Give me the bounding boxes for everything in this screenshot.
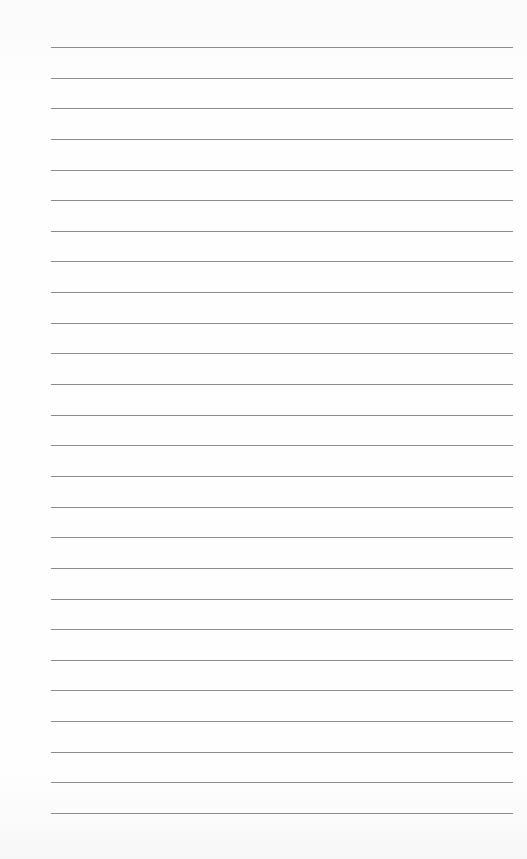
- ruled-line: [51, 568, 513, 569]
- ruled-line: [51, 353, 513, 354]
- ruled-line: [51, 139, 513, 140]
- ruled-line: [51, 690, 513, 691]
- ruled-line: [51, 507, 513, 508]
- ruled-line: [51, 445, 513, 446]
- ruled-line: [51, 292, 513, 293]
- ruled-line: [51, 108, 513, 109]
- ruled-line: [51, 200, 513, 201]
- ruled-line: [51, 660, 513, 661]
- ruled-line: [51, 599, 513, 600]
- ruled-line: [51, 537, 513, 538]
- ruled-line: [51, 415, 513, 416]
- ruled-line: [51, 47, 513, 48]
- ruled-line: [51, 476, 513, 477]
- ruled-line: [51, 782, 513, 783]
- ruled-line: [51, 323, 513, 324]
- ruled-line: [51, 752, 513, 753]
- ruled-line: [51, 813, 513, 814]
- ruled-line: [51, 261, 513, 262]
- ruled-line: [51, 721, 513, 722]
- ruled-line: [51, 629, 513, 630]
- ruled-line: [51, 231, 513, 232]
- ruled-line: [51, 170, 513, 171]
- ruled-line: [51, 78, 513, 79]
- lined-paper-page: [0, 0, 527, 859]
- ruled-line: [51, 384, 513, 385]
